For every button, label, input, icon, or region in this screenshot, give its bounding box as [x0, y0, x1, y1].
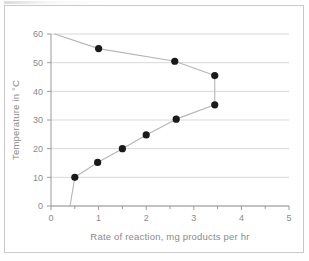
y-axis-major-ticks: [47, 34, 51, 206]
y-axis-tick-labels: 0102030405060: [33, 29, 43, 211]
data-point-1: [71, 174, 78, 181]
y-axis-title: Temperature in °C: [10, 80, 21, 160]
x-axis-title: Rate of reaction, mg products per hr: [90, 231, 249, 242]
chart-plot: 012345 0102030405060 Rate of reaction, m…: [5, 6, 303, 252]
data-point-8: [171, 58, 178, 65]
x-tick-label-0: 0: [48, 213, 53, 223]
data-point-6: [211, 101, 218, 108]
x-axis-tick-labels: 012345: [48, 213, 291, 223]
y-tick-label-40: 40: [33, 87, 43, 97]
x-tick-label-1: 1: [96, 213, 101, 223]
figure-container: 012345 0102030405060 Rate of reaction, m…: [0, 0, 309, 261]
data-point-7: [211, 72, 218, 79]
y-tick-label-60: 60: [33, 29, 43, 39]
data-series-markers: [71, 45, 218, 181]
x-tick-label-4: 4: [239, 213, 244, 223]
data-point-4: [143, 131, 150, 138]
data-point-5: [173, 116, 180, 123]
y-tick-label-20: 20: [33, 144, 43, 154]
y-tick-label-30: 30: [33, 115, 43, 125]
x-tick-label-5: 5: [286, 213, 291, 223]
x-tick-label-2: 2: [144, 213, 149, 223]
data-point-9: [95, 45, 102, 52]
x-tick-label-3: 3: [191, 213, 196, 223]
scan-artifact: [4, 1, 124, 4]
y-tick-label-10: 10: [33, 173, 43, 183]
y-tick-label-0: 0: [38, 201, 43, 211]
figure-frame: 012345 0102030405060 Rate of reaction, m…: [4, 5, 304, 253]
gridlines: [51, 34, 289, 206]
data-point-2: [94, 159, 101, 166]
y-tick-label-50: 50: [33, 58, 43, 68]
data-point-3: [119, 145, 126, 152]
